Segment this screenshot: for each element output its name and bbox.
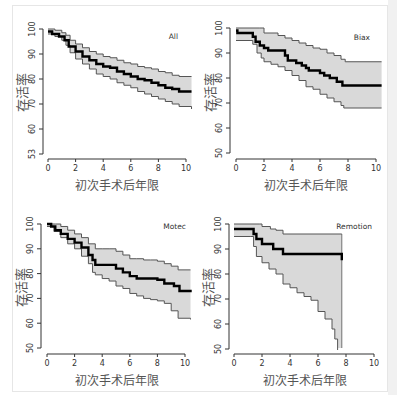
x-tick-label: 6 <box>127 359 132 368</box>
y-tick-label: 50 <box>214 344 223 354</box>
y-tick-label: 80 <box>28 74 37 84</box>
y-tick-label: 70 <box>28 99 37 109</box>
x-tick-label: 10 <box>369 359 379 368</box>
panel-title: All <box>169 32 178 41</box>
y-tick-label: 90 <box>214 244 223 254</box>
x-tick-label: 2 <box>73 164 78 173</box>
x-tick-label: 8 <box>156 164 161 173</box>
y-tick-label: 50 <box>26 343 35 353</box>
y-tick-label: 80 <box>26 269 35 279</box>
y-tick-label: 80 <box>215 73 224 83</box>
x-tick-label: 2 <box>261 164 266 173</box>
x-tick-label: 0 <box>233 164 238 173</box>
plot-area: 50607080901000246810 <box>26 216 191 368</box>
plot-area: 50607080901000246810 <box>214 216 379 368</box>
x-tick-label: 10 <box>180 359 190 368</box>
y-tick-label: 100 <box>26 216 35 231</box>
x-tick-label: 4 <box>101 164 106 173</box>
y-tick-label: 70 <box>26 293 35 303</box>
y-tick-label: 100 <box>214 216 223 231</box>
survival-figure: All 初次手术后年限 存活率 Biax 初次手术后年限 存活率 Motec 初… <box>0 0 397 407</box>
panel-title: Remotion <box>336 222 372 231</box>
x-tick-label: 2 <box>259 359 264 368</box>
x-tick-label: 6 <box>128 164 133 173</box>
x-tick-label: 2 <box>72 359 77 368</box>
y-tick-label: 60 <box>214 319 223 329</box>
x-tick-label: 10 <box>371 164 381 173</box>
x-tick-label: 0 <box>45 164 50 173</box>
x-axis-label: 初次手术后年限 <box>263 374 347 388</box>
y-tick-label: 50 <box>215 148 224 158</box>
y-tick-label: 90 <box>26 244 35 254</box>
plot-area: 50607080901000246810 <box>215 20 382 173</box>
y-tick-label: 80 <box>214 269 223 279</box>
x-tick-label: 0 <box>44 359 49 368</box>
y-tick-label: 100 <box>215 20 224 35</box>
y-tick-label: 60 <box>215 123 224 133</box>
x-tick-label: 8 <box>343 359 348 368</box>
x-tick-label: 6 <box>315 359 320 368</box>
x-tick-label: 4 <box>287 359 292 368</box>
x-tick-label: 8 <box>345 164 350 173</box>
y-tick-label: 70 <box>214 294 223 304</box>
panel-title: Biax <box>354 33 371 42</box>
x-tick-label: 0 <box>231 359 236 368</box>
plot-area: 53607080901000246810 <box>28 21 192 173</box>
y-tick-label: 60 <box>28 124 37 134</box>
x-axis-label: 初次手术后年限 <box>264 179 348 193</box>
y-tick-label: 90 <box>215 48 224 58</box>
y-tick-label: 70 <box>215 98 224 108</box>
y-tick-label: 100 <box>28 21 37 36</box>
x-axis-label: 初次手术后年限 <box>75 374 159 388</box>
y-tick-label: 60 <box>26 318 35 328</box>
x-tick-label: 10 <box>181 164 191 173</box>
x-tick-label: 6 <box>317 164 322 173</box>
x-tick-label: 8 <box>155 359 160 368</box>
y-tick-label: 90 <box>28 49 37 59</box>
panel-title: Motec <box>163 222 186 231</box>
y-tick-label: 53 <box>28 149 37 159</box>
x-tick-label: 4 <box>100 359 105 368</box>
confidence-band <box>234 224 342 348</box>
x-tick-label: 4 <box>289 164 294 173</box>
x-axis-label: 初次手术后年限 <box>75 179 159 193</box>
